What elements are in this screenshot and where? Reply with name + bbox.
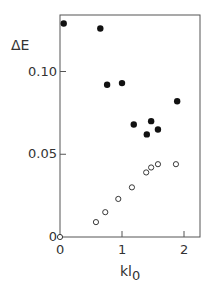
x-tick-label: 2 — [180, 243, 188, 256]
filled-data-point — [174, 98, 180, 104]
open-data-point — [116, 196, 121, 201]
data-points — [57, 20, 180, 239]
filled-data-point — [119, 80, 125, 86]
open-data-point — [144, 170, 149, 175]
filled-data-point — [97, 25, 103, 31]
filled-data-point — [61, 20, 67, 26]
open-data-point — [155, 162, 160, 167]
x-tick-label: 1 — [118, 243, 126, 256]
y-axis-label: ΔE — [11, 38, 29, 52]
filled-data-point — [155, 126, 161, 132]
y-tick-label: 0.05 — [28, 147, 57, 160]
x-tick-label: 0 — [56, 243, 64, 256]
open-data-point — [149, 165, 154, 170]
axis-ticks — [60, 72, 184, 238]
plot-frame — [60, 15, 200, 237]
x-axis-label-subscript: 0 — [132, 268, 140, 283]
open-data-point — [57, 234, 62, 239]
filled-data-point — [144, 131, 150, 137]
filled-data-point — [131, 121, 137, 127]
open-data-point — [129, 185, 134, 190]
open-data-point — [173, 162, 178, 167]
open-data-point — [103, 210, 108, 215]
filled-data-point — [104, 82, 110, 88]
filled-data-point — [148, 118, 154, 124]
y-tick-label: 0.10 — [28, 65, 57, 78]
x-axis-label: kl0 — [120, 264, 140, 278]
x-axis-label-main: kl — [120, 263, 132, 279]
open-data-point — [93, 220, 98, 225]
